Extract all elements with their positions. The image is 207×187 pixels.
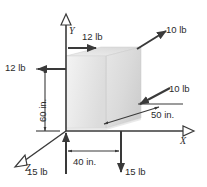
force-label-12lb-left: 12 lb (5, 63, 26, 73)
force-label-15lb-right: 15 lb (125, 167, 146, 177)
dimension-label-60in: 60 in. (38, 99, 48, 122)
force-arrow-10lb-down-left (140, 88, 170, 104)
statics-force-diagram: 12 lb 12 lb 10 lb 10 lb 15 lb 15 lb 60 i… (0, 0, 207, 187)
axis-label-z: Z (25, 163, 31, 173)
z-axis-line (24, 131, 66, 161)
axis-label-y: Y (69, 26, 75, 36)
force-arrow-10lb-up-right (137, 31, 166, 49)
force-label-10lb-upper: 10 lb (166, 25, 187, 35)
dimension-label-40in: 40 in. (73, 157, 96, 167)
force-label-10lb-lower: 10 lb (169, 84, 190, 94)
y-axis-arrowhead (61, 14, 71, 25)
block-solid (66, 47, 141, 130)
dimension-label-50in: 50 in. (151, 110, 174, 120)
axis-label-x: X (180, 136, 186, 146)
force-label-12lb-top: 12 lb (82, 32, 103, 42)
